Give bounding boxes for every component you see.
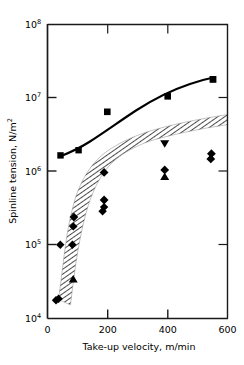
x-tick-label-0: 0 xyxy=(44,324,50,335)
x-axis-title: Take-up velocity, m/min xyxy=(81,341,195,352)
spinline-tension-scatter-chart: 108 107 106 105 104 0 200 400 600 Take-u… xyxy=(0,0,244,365)
data-point-square xyxy=(75,147,81,153)
chart-figure: 108 107 106 105 104 0 200 400 600 Take-u… xyxy=(0,0,244,365)
data-point-square xyxy=(164,93,171,100)
data-point-square xyxy=(104,109,111,116)
data-point-square xyxy=(210,76,217,83)
chart-background xyxy=(0,0,244,365)
x-tick-label-600: 600 xyxy=(218,324,236,335)
x-tick-label-400: 400 xyxy=(159,324,177,335)
x-tick-label-200: 200 xyxy=(99,324,117,335)
data-point-square xyxy=(57,152,63,158)
y-axis-title: Spinline tension, N/m2 xyxy=(6,118,18,224)
